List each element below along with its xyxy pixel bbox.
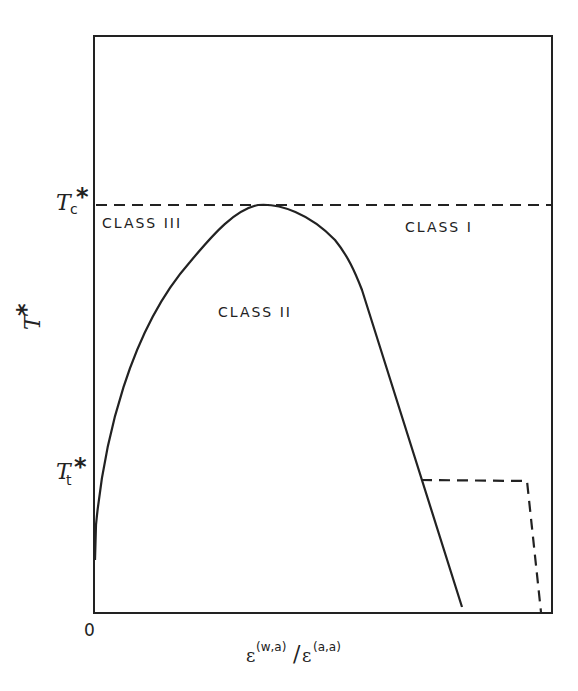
y-tick-tc: T c * [56,183,89,217]
x-label-num-symbol: ε [246,645,255,666]
x-axis-label: ε (w,a) / ε (a,a) [246,640,341,666]
x-label-slash: / [293,641,301,666]
y-tick-tc-star: * [76,183,89,211]
region-label-class-ii: CLASS II [218,304,292,320]
x-label-num-sup: (w,a) [256,640,286,654]
plot-frame [94,36,552,613]
y-axis-label: T * [12,303,45,330]
y-tick-tt: T t * [56,453,87,488]
region-label-class-iii: CLASS III [102,215,182,231]
phase-diagram: CLASS III CLASS II CLASS I T c * T t * T… [0,0,578,691]
y-axis-label-star: * [12,303,40,316]
triple-point-line [421,480,541,612]
coexistence-curve [95,205,462,607]
x-label-den-symbol: ε [302,645,311,666]
y-tick-tt-star: * [74,453,87,481]
y-tick-tt-sub: t [66,472,72,488]
x-label-den-sup: (a,a) [313,640,341,654]
origin-label: 0 [84,620,95,640]
region-label-class-i: CLASS I [405,219,473,235]
